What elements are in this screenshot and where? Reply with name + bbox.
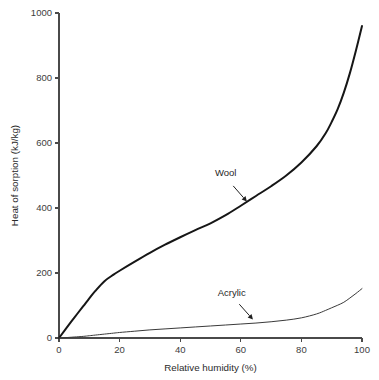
y-axis-ticks: 02004006008001000 — [31, 7, 59, 343]
chart-figure: 02004006008001000 020406080100 WoolAcryl… — [0, 0, 379, 380]
y-tick-label-200: 200 — [36, 267, 52, 278]
heat-of-sorption-line-chart: 02004006008001000 020406080100 WoolAcryl… — [0, 0, 379, 380]
x-axis-ticks: 020406080100 — [56, 338, 370, 355]
x-axis-title: Relative humidity (%) — [164, 362, 257, 373]
annotation-label-acrylic: Acrylic — [218, 287, 246, 298]
x-tick-label-0: 0 — [56, 344, 61, 355]
x-tick-label-60: 60 — [236, 344, 247, 355]
plot-axes — [59, 13, 362, 338]
annotation-label-wool: Wool — [215, 167, 236, 178]
y-tick-label-0: 0 — [47, 332, 52, 343]
annotation-arrow-wool — [233, 186, 243, 198]
y-tick-label-400: 400 — [36, 202, 52, 213]
y-axis-title: Heat of sorption (kJ/kg) — [9, 125, 20, 226]
y-tick-label-600: 600 — [36, 137, 52, 148]
annotation-arrow-acrylic — [239, 304, 249, 316]
x-tick-label-80: 80 — [296, 344, 307, 355]
x-tick-label-100: 100 — [354, 344, 370, 355]
series-annotations: WoolAcrylic — [215, 167, 253, 319]
series-line-wool — [59, 26, 362, 338]
series-line-acrylic — [59, 289, 362, 338]
y-tick-label-1000: 1000 — [31, 7, 52, 18]
x-tick-label-40: 40 — [175, 344, 186, 355]
y-tick-label-800: 800 — [36, 72, 52, 83]
x-tick-label-20: 20 — [114, 344, 125, 355]
data-series-group — [59, 26, 362, 338]
